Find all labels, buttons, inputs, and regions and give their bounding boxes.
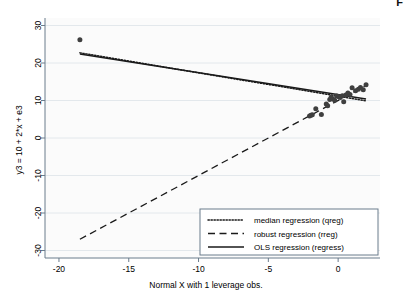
scatter-point xyxy=(325,103,330,108)
scatter-point xyxy=(341,99,346,104)
y-tick-label: 30 xyxy=(33,21,43,31)
x-axis-tick-labels: -20-15-10-50 xyxy=(53,264,341,274)
figure-container: F 3020100-10-20-30 -20-15-10-50 y3 = 10 … xyxy=(0,0,406,308)
y-tick-label: 0 xyxy=(33,135,43,140)
scatter-point xyxy=(364,82,369,87)
y-tick-label: 20 xyxy=(33,58,43,68)
y-tick-label: -10 xyxy=(33,169,43,182)
corner-mark-label: F xyxy=(396,0,403,8)
scatter-point xyxy=(77,37,82,42)
x-tick-label: -15 xyxy=(123,264,136,274)
x-tick-label: -10 xyxy=(192,264,205,274)
scatter-point xyxy=(319,112,324,117)
y-tick-label: -20 xyxy=(33,207,43,220)
x-tick-label: -5 xyxy=(265,264,273,274)
scatter-point xyxy=(347,92,352,97)
x-axis-title: Normal X with 1 leverage obs. xyxy=(149,280,262,290)
x-tick-label: -20 xyxy=(53,264,66,274)
legend-label: median regression (qreg) xyxy=(254,216,344,225)
y-axis-tick-labels: 3020100-10-20-30 xyxy=(33,21,43,257)
x-tick-label: 0 xyxy=(336,264,341,274)
y-tick-label: 10 xyxy=(33,96,43,106)
scatter-point xyxy=(313,106,318,111)
regression-scatter-chart: 3020100-10-20-30 -20-15-10-50 y3 = 10 + … xyxy=(0,0,406,308)
scatter-point xyxy=(361,87,366,92)
legend-label: robust regression (rreg) xyxy=(254,230,338,239)
y-axis-title: y3 = 10 + 2*x + e3 xyxy=(14,105,24,175)
legend-label: OLS regression (regress) xyxy=(254,243,344,252)
chart-legend: median regression (qreg)robust regressio… xyxy=(200,209,378,255)
y-tick-label: -30 xyxy=(33,244,43,257)
scatter-point xyxy=(310,112,315,117)
